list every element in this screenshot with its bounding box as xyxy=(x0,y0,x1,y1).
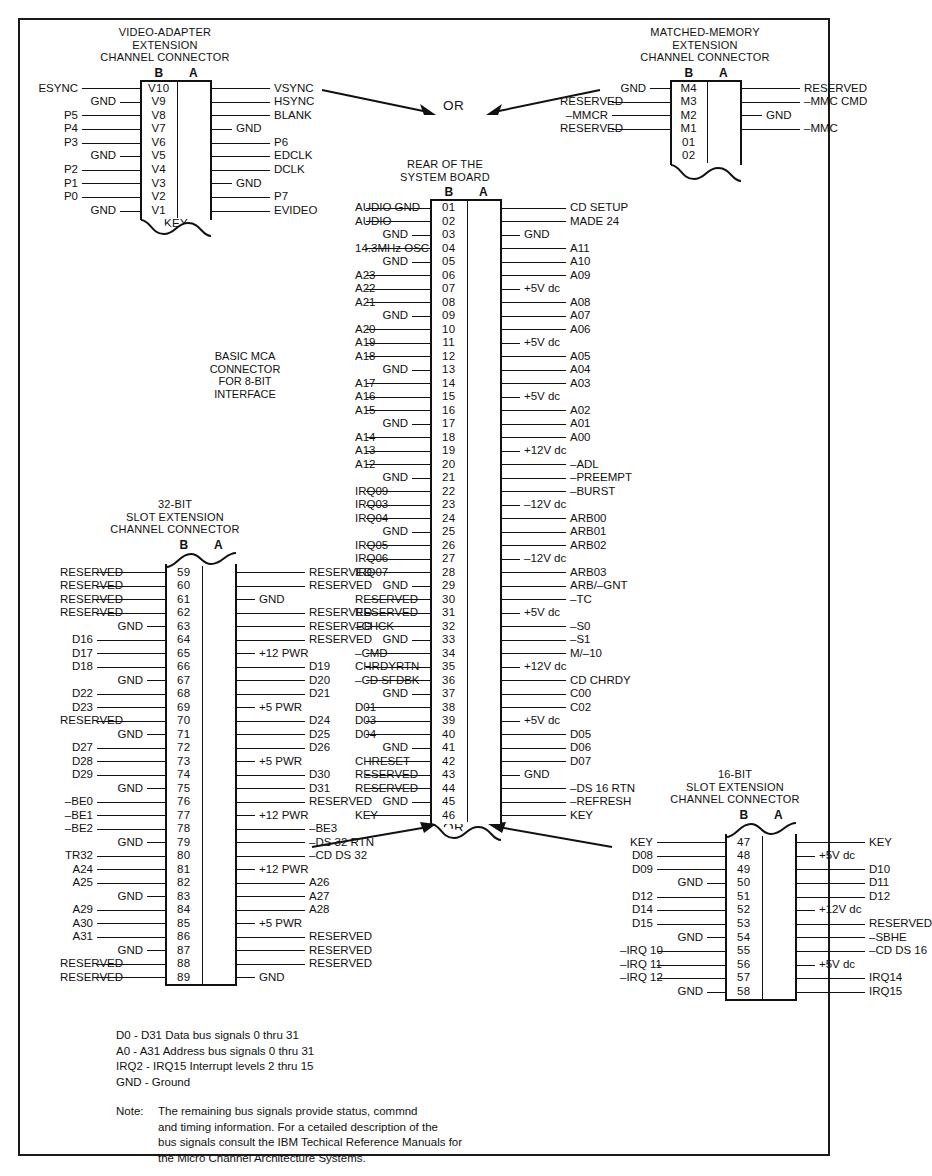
pin-list: 47KEYKEY48D08+5V dc49D09D1050GNDD1151D12… xyxy=(620,836,850,999)
pin-label-right: VSYNC xyxy=(274,82,314,96)
pin-lead-right xyxy=(237,883,305,884)
pin-lead-right xyxy=(237,680,305,681)
pin-lead-left xyxy=(97,761,165,762)
pin-row: 40D04D05 xyxy=(355,728,535,742)
pin-lead-right xyxy=(237,707,255,708)
connector-body: 59RESERVEDRESERVED60RESERVEDRESERVED61RE… xyxy=(60,552,290,987)
pin-lead-left xyxy=(412,478,430,479)
pin-number: 43 xyxy=(430,768,467,782)
pin-number: 24 xyxy=(430,512,467,526)
pin-label-left: D17 xyxy=(60,647,93,661)
pin-lead-right xyxy=(502,478,566,479)
pin-row: 74D29D30 xyxy=(60,768,290,782)
pin-lead-left xyxy=(97,869,165,870)
pin-lead-right xyxy=(502,748,566,749)
pin-list: V10ESYNCVSYNCV9GNDHSYNCV8P5BLANKV7P4GNDV… xyxy=(0,82,330,232)
pin-label-left: P0 xyxy=(0,190,78,204)
pin-label-right: GND xyxy=(236,122,262,136)
pin-number: 34 xyxy=(430,647,467,661)
pin-lead-right xyxy=(237,640,305,641)
pin-row: 12A18A05 xyxy=(355,350,535,364)
pin-lead-left xyxy=(412,424,430,425)
pin-number: 11 xyxy=(430,336,467,350)
pin-label-left: IRQ06 xyxy=(355,552,362,566)
pin-number: 55 xyxy=(725,944,762,958)
pin-row: M4GNDRESERVED xyxy=(560,82,850,96)
pin-list: M4GNDRESERVEDM3RESERVED–MMC CMDM2–MMCRGN… xyxy=(560,82,850,164)
pin-label-right: ARB/–GNT xyxy=(570,579,628,593)
pin-number: 59 xyxy=(165,566,202,580)
pin-row: 83GNDA27 xyxy=(60,890,290,904)
key-notch-bottom xyxy=(670,164,742,184)
pin-label-right: RESERVED xyxy=(309,795,372,809)
pin-number: 54 xyxy=(725,931,762,945)
pin-row: 81A24+12 PWR xyxy=(60,863,290,877)
pin-lead-left xyxy=(657,856,725,857)
pin-lead-left xyxy=(412,532,430,533)
pin-row: 24IRQ04ARB00 xyxy=(355,512,535,526)
pin-label-right: A03 xyxy=(570,377,590,391)
pin-lead-left xyxy=(412,262,430,263)
pin-label-right: ARB03 xyxy=(570,566,606,580)
pin-lead-right xyxy=(502,572,566,573)
pin-label-right: RESERVED xyxy=(309,579,372,593)
pin-lead-left xyxy=(366,275,430,276)
system-board-connector: REAR OF THE SYSTEM BOARD BA01AUDIO GNDCD… xyxy=(355,158,535,842)
pin-lead-right xyxy=(502,653,566,654)
pin-lead-right xyxy=(502,437,566,438)
pin-label-left: A22 xyxy=(355,282,362,296)
pin-number: 57 xyxy=(725,971,762,985)
pin-row: 06A23A09 xyxy=(355,269,535,283)
pin-number: 80 xyxy=(165,849,202,863)
pin-row: V3P1GND xyxy=(0,177,330,191)
column-header-b: B xyxy=(739,808,748,822)
pin-number: V4 xyxy=(140,163,177,177)
pin-label-left: –BE1 xyxy=(60,809,93,823)
pin-lead-right xyxy=(502,640,566,641)
pin-row: 09GNDA07 xyxy=(355,309,535,323)
pin-number: 09 xyxy=(430,309,467,323)
pin-label-left: ESYNC xyxy=(0,82,78,96)
pin-lead-right xyxy=(212,129,232,130)
pin-number: 60 xyxy=(165,579,202,593)
pin-lead-right xyxy=(237,613,305,614)
pin-number: V6 xyxy=(140,136,177,150)
pin-number: 85 xyxy=(165,917,202,931)
pin-row: 31RESERVED+5V dc xyxy=(355,606,535,620)
pin-lead-left xyxy=(97,802,165,803)
pin-label-left: –MMCR xyxy=(560,109,608,123)
column-header-b: B xyxy=(444,185,453,199)
pin-number: 29 xyxy=(430,579,467,593)
pin-label-left: –BE0 xyxy=(60,795,93,809)
pin-row: V10ESYNCVSYNC xyxy=(0,82,330,96)
pin-number: V5 xyxy=(140,149,177,163)
pin-row: 50GNDD11 xyxy=(620,876,850,890)
pin-row: 01AUDIO GNDCD SETUP xyxy=(355,201,535,215)
pin-lead-left xyxy=(707,937,725,938)
pin-number: 48 xyxy=(725,849,762,863)
pin-number: 40 xyxy=(430,728,467,742)
pin-lead-left xyxy=(97,937,165,938)
pin-label-left: KEY xyxy=(355,809,362,823)
connector-body: 01AUDIO GNDCD SETUP02AUDIOMADE 2403GNDGN… xyxy=(355,199,535,842)
pin-number: 81 xyxy=(165,863,202,877)
pin-label-left: D01 xyxy=(355,701,362,715)
pin-label-left: GND xyxy=(60,944,143,958)
pin-number: 56 xyxy=(725,958,762,972)
pin-number: 51 xyxy=(725,890,762,904)
pin-lead-right xyxy=(502,613,520,614)
pin-label-left: –IRQ 10 xyxy=(620,944,653,958)
pin-label-left: GND xyxy=(620,985,703,999)
pin-label-left: A31 xyxy=(60,930,93,944)
pin-number: 65 xyxy=(165,647,202,661)
pin-label-left: GND xyxy=(60,620,143,634)
pin-row: 33GND–S1 xyxy=(355,633,535,647)
pin-lead-right xyxy=(237,721,305,722)
pin-row: 16A15A02 xyxy=(355,404,535,418)
pin-row: 07A22+5V dc xyxy=(355,282,535,296)
pin-label-right: –ADL xyxy=(570,458,599,472)
pin-number: 28 xyxy=(430,566,467,580)
pin-row: 43RESERVEDGND xyxy=(355,768,535,782)
pin-row: 38D01C02 xyxy=(355,701,535,715)
